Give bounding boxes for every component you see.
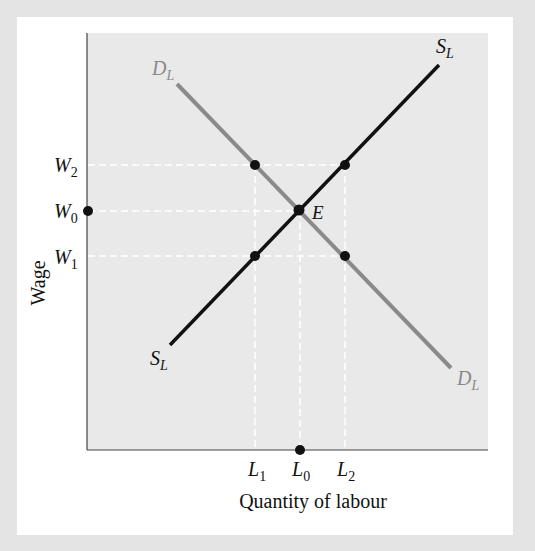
wage-label-w2: W2 xyxy=(54,154,78,180)
y-axis-title: Wage xyxy=(27,260,50,305)
point-supply-w2 xyxy=(340,160,350,170)
point-supply-w1 xyxy=(250,251,260,261)
quantity-label-l2: L2 xyxy=(336,458,355,484)
point-equilibrium xyxy=(294,205,305,216)
wage-label-w0: W0 xyxy=(54,200,78,226)
x-axis-title: Quantity of labour xyxy=(239,490,387,513)
plot-area xyxy=(87,33,488,450)
equilibrium-label: E xyxy=(311,202,324,223)
point-w0-axis xyxy=(83,206,93,216)
point-demand-w1 xyxy=(340,251,350,261)
point-demand-w2 xyxy=(250,160,260,170)
wage-label-w1: W1 xyxy=(54,246,78,272)
point-l0-axis xyxy=(295,445,305,455)
quantity-label-l1: L1 xyxy=(247,458,266,484)
quantity-label-l0: L0 xyxy=(291,458,310,484)
labour-market-diagram: SL SL DL DL E W2 W0 W1 L1 L0 L2 Wage Qua… xyxy=(0,0,535,551)
